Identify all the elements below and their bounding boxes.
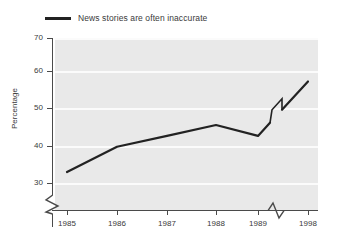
x-tick-label-1998: 1998: [288, 219, 328, 228]
x-tick-label-1987: 1987: [147, 219, 187, 228]
y-tick-30: [47, 183, 52, 184]
x-tick-label-1986: 1986: [97, 219, 137, 228]
plot-area: [55, 38, 318, 210]
gridline-70: [55, 38, 318, 40]
y-tick-60: [47, 71, 52, 72]
y-axis-line: [52, 38, 53, 195]
x-tick-1989: [258, 210, 259, 215]
y-tick-70: [47, 38, 52, 39]
y-tick-50: [47, 108, 52, 109]
x-tick-label-1985: 1985: [47, 219, 87, 228]
x-tick-1986: [117, 210, 118, 215]
chart-legend: News stories are often inaccurate: [45, 10, 207, 26]
legend-label: News stories are often inaccurate: [78, 13, 207, 23]
x-tick-1987: [167, 210, 168, 215]
y-tick-label-40: 40: [23, 141, 43, 150]
x-tick-1985: [67, 210, 68, 215]
x-tick-1988: [216, 210, 217, 215]
x-tick-label-1988: 1988: [196, 219, 236, 228]
gridline-40: [55, 146, 318, 148]
y-tick-label-30: 30: [23, 178, 43, 187]
gridline-60: [55, 71, 318, 73]
x-tick-label-1989: 1989: [238, 219, 278, 228]
y-tick-40: [47, 146, 52, 147]
x-axis-line: [52, 210, 318, 211]
y-tick-label-60: 60: [23, 66, 43, 75]
x-tick-1998: [308, 210, 309, 215]
line-chart: News stories are often inaccurate Percen…: [0, 0, 337, 248]
y-axis-title: Percentage: [10, 74, 19, 144]
y-tick-label-50: 50: [23, 103, 43, 112]
y-tick-label-70: 70: [23, 33, 43, 42]
gridline-30: [55, 183, 318, 185]
legend-line-swatch: [45, 17, 71, 20]
gridline-50: [55, 108, 318, 110]
